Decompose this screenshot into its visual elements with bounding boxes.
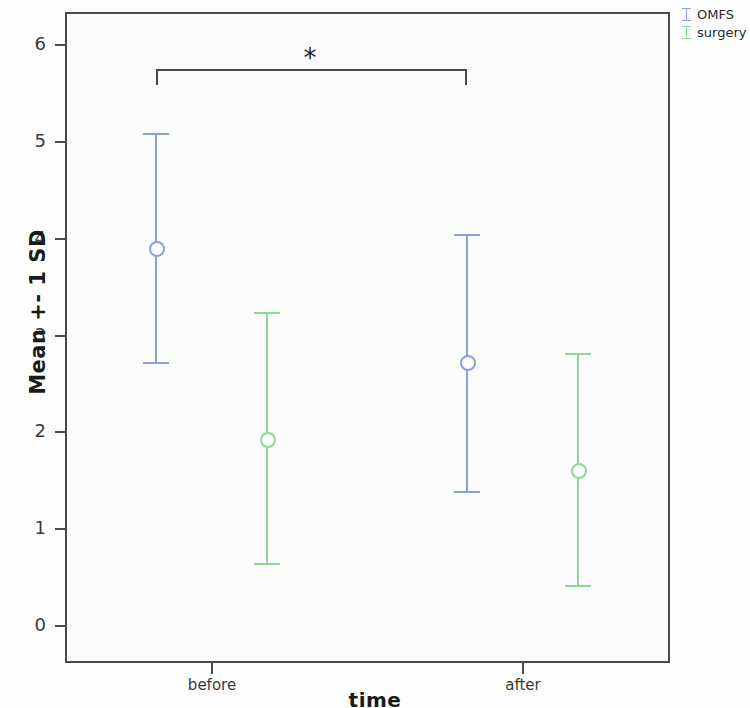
mean-marker <box>260 432 276 448</box>
error-bar-upper-cap <box>143 133 169 135</box>
y-axis-tick <box>55 528 67 530</box>
y-axis-tick-label: 6 <box>12 35 46 53</box>
error-bar-upper-cap <box>565 353 591 355</box>
y-axis-tick <box>55 335 67 337</box>
errorbar-chart: 0123456 Mean +- 1 SD beforeafter time * … <box>0 0 750 708</box>
error-bar-lower-cap <box>143 362 169 364</box>
error-bar-icon <box>681 8 692 21</box>
error-bar-lower-cap <box>565 585 591 587</box>
y-axis-title: Mean +- 1 SD <box>26 182 50 442</box>
y-axis-tick-label: 0 <box>12 616 46 634</box>
x-axis-tick <box>211 663 213 674</box>
error-bar <box>247 311 287 566</box>
legend-item[interactable]: OMFS <box>681 6 750 23</box>
legend-label: surgery <box>697 25 746 40</box>
y-axis-tick <box>55 44 67 46</box>
significance-star: * <box>304 45 317 71</box>
y-axis-tick-label: 1 <box>12 519 46 537</box>
legend: OMFSsurgery <box>681 6 750 42</box>
legend-label: OMFS <box>697 7 734 22</box>
y-axis-tick <box>55 141 67 143</box>
mean-marker <box>460 355 476 371</box>
y-axis-tick-label: 5 <box>12 132 46 150</box>
error-bar <box>136 132 176 365</box>
error-bar-upper-cap <box>254 312 280 314</box>
y-axis-tick <box>55 238 67 240</box>
x-axis-title: time <box>0 688 750 708</box>
error-bar <box>558 352 598 588</box>
y-axis-tick <box>55 431 67 433</box>
error-bar-upper-cap <box>454 234 480 236</box>
mean-marker <box>149 241 165 257</box>
y-axis-tick <box>55 625 67 627</box>
error-bar <box>447 233 487 495</box>
mean-marker <box>571 463 587 479</box>
error-bar-icon <box>681 26 692 39</box>
x-axis-tick <box>522 663 524 674</box>
error-bar-lower-cap <box>254 563 280 565</box>
error-bar-lower-cap <box>454 491 480 493</box>
legend-item[interactable]: surgery <box>681 24 750 41</box>
